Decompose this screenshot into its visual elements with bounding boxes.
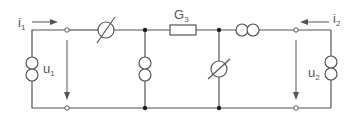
crossed-source-top <box>97 17 115 43</box>
terminal-port1-bottom <box>65 106 69 110</box>
source-u2-lower-circle <box>325 68 337 80</box>
label-u2: u2 <box>308 66 320 82</box>
terminal-port2-bottom <box>294 106 298 110</box>
voltage-arrow-u2 <box>293 40 299 100</box>
junction-node <box>143 28 147 32</box>
label-u2-sub: 2 <box>315 73 319 82</box>
label-g3-main: G <box>174 7 184 22</box>
terminal-port2-top <box>294 28 298 32</box>
current-arrow-i1 <box>32 19 58 25</box>
voltage-arrow-u1 <box>64 40 70 100</box>
label-u1: u1 <box>43 62 55 78</box>
junction-node <box>143 106 147 110</box>
crossed-source-shunt <box>208 30 230 108</box>
label-u1-sub: 1 <box>50 69 54 78</box>
label-g3: G3 <box>174 8 189 24</box>
label-i1-sub: 1 <box>21 23 25 32</box>
source-top-right <box>236 24 259 36</box>
current-arrow-i2 <box>300 19 329 25</box>
label-i2: i2 <box>333 12 340 28</box>
junction-node <box>217 28 221 32</box>
label-i2-sub: 2 <box>336 19 340 28</box>
source-u1-lower-circle <box>26 69 38 81</box>
right-outer-branch <box>325 30 337 108</box>
resistor-g3 <box>170 25 196 35</box>
source-u1-upper-circle <box>26 57 38 69</box>
terminal-port1-top <box>65 28 69 32</box>
label-g3-sub: 3 <box>184 15 188 24</box>
source-u2-upper-circle <box>325 56 337 68</box>
source-middle-left <box>139 30 151 108</box>
label-i1: i1 <box>18 16 25 32</box>
junction-node <box>217 106 221 110</box>
